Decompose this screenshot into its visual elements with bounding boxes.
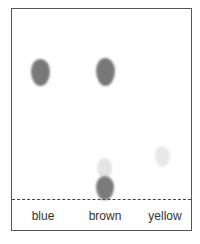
lane-label-yellow: yellow	[148, 209, 181, 223]
origin-baseline	[12, 199, 191, 200]
blue-lane-spot	[31, 59, 50, 86]
chromatography-paper: blue brown yellow	[11, 8, 192, 231]
brown-lane-upper-spot	[96, 58, 115, 86]
lane-label-blue: blue	[32, 209, 55, 223]
brown-lane-lower-spot	[96, 176, 114, 200]
lane-label-brown: brown	[89, 209, 122, 223]
yellow-lane-faint-spot	[155, 146, 170, 167]
